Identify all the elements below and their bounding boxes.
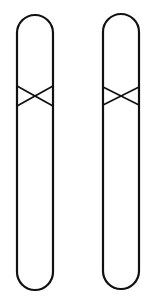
right-chromatid-shape xyxy=(103,14,139,289)
diagram-canvas xyxy=(0,0,156,299)
chromatid-outline xyxy=(17,15,53,290)
crossing-over-diagram xyxy=(0,0,156,299)
left-chromatid-shape xyxy=(17,15,53,290)
chromatid-outline xyxy=(103,14,139,289)
